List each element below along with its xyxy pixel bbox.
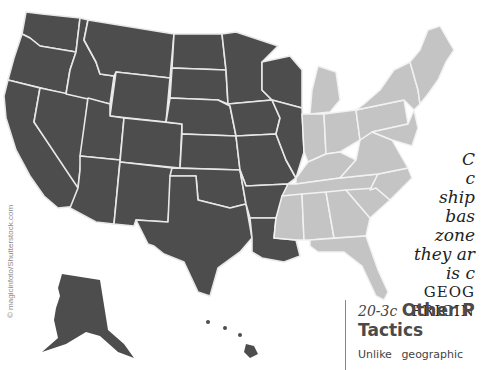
caption-line: they ar bbox=[365, 245, 475, 264]
caption-line: C bbox=[365, 150, 475, 169]
caption-line: zone bbox=[365, 226, 475, 245]
caption-line: c bbox=[365, 169, 475, 188]
caption-line: ship bbox=[365, 188, 475, 207]
caption-line: is c bbox=[365, 264, 475, 283]
western-zone bbox=[4, 12, 304, 358]
section-heading-block: 20-3c Other P Tactics Unlike geographic bbox=[345, 300, 481, 370]
section-title: Other P bbox=[402, 300, 475, 320]
photo-credit: © magicinfoto/Shutterstock.com bbox=[6, 205, 15, 318]
section-number: 20-3c bbox=[358, 303, 397, 319]
section-body-text: Unlike geographic bbox=[358, 348, 481, 361]
caption-line: bas bbox=[365, 207, 475, 226]
section-title-continued: Tactics bbox=[358, 320, 481, 340]
figure-caption: C c ship bas zone they ar is c GEOG PRIC… bbox=[365, 150, 475, 321]
